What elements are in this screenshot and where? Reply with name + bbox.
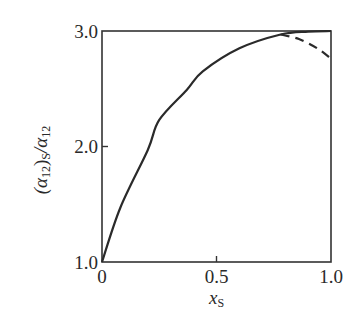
y-tick-label-2: 2.0 xyxy=(74,136,98,157)
x-tick-label-0: 0 xyxy=(97,266,107,287)
x-tick-label-1: 1.0 xyxy=(319,266,343,287)
plot-frame xyxy=(102,31,331,262)
chart: 3.0 2.0 1.0 0 0.5 1.0 xS (α12)S/α12 xyxy=(0,0,354,327)
y-axis-label: (α12)S/α12 xyxy=(30,126,53,195)
y-tick-label-1: 1.0 xyxy=(74,252,98,273)
dashed-curve xyxy=(281,34,331,58)
x-axis-label: xS xyxy=(208,287,224,310)
y-tick-label-3: 3.0 xyxy=(74,21,98,42)
x-tick-label-05: 0.5 xyxy=(205,266,229,287)
solid-curve xyxy=(102,31,331,262)
